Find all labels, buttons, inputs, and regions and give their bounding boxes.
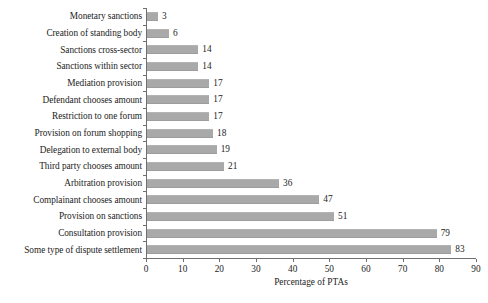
y-axis-tick [143, 8, 146, 9]
bar-value-label: 83 [455, 245, 464, 254]
x-axis-tick-label: 80 [427, 264, 451, 275]
category-axis-labels: Monetary sanctionsCreation of standing b… [0, 8, 142, 258]
x-axis-tick [329, 259, 330, 262]
bar-value-label: 3 [162, 12, 167, 21]
y-axis-tick [143, 108, 146, 109]
bar [147, 179, 279, 188]
bar-value-label: 14 [202, 45, 211, 54]
x-axis-title: Percentage of PTAs [146, 277, 476, 287]
bar-value-label: 6 [173, 29, 178, 38]
y-axis-tick [143, 91, 146, 92]
y-axis-tick [143, 58, 146, 59]
bar-value-label: 17 [213, 79, 222, 88]
x-axis-tick [403, 259, 404, 262]
category-label: Creation of standing body [0, 28, 142, 38]
y-axis-tick [143, 125, 146, 126]
y-axis-tick [143, 175, 146, 176]
bar-value-label: 14 [202, 62, 211, 71]
category-label: Consultation provision [0, 228, 142, 238]
category-label: Provision on sanctions [0, 211, 142, 221]
category-label: Sanctions cross-sector [0, 45, 142, 55]
x-axis-tick-label: 60 [354, 264, 378, 275]
x-axis-tick [366, 259, 367, 262]
bar [147, 12, 158, 21]
category-label: Mediation provision [0, 78, 142, 88]
x-axis-tick-label: 70 [391, 264, 415, 275]
bar-value-label: 18 [217, 129, 226, 138]
bar-value-label: 51 [338, 212, 347, 221]
y-axis-tick [143, 241, 146, 242]
x-axis-tick-label: 40 [281, 264, 305, 275]
bar-value-label: 47 [323, 195, 332, 204]
x-axis-tick-label: 30 [244, 264, 268, 275]
category-label: Complainant chooses amount [0, 195, 142, 205]
x-axis-tick-label: 90 [464, 264, 488, 275]
bar [147, 29, 169, 38]
bar [147, 245, 451, 254]
bar-value-label: 17 [213, 95, 222, 104]
bar [147, 112, 209, 121]
x-axis-tick-label: 50 [317, 264, 341, 275]
bar [147, 145, 217, 154]
x-axis-tick-label: 10 [171, 264, 195, 275]
y-axis-tick [143, 225, 146, 226]
category-label: Delegation to external body [0, 145, 142, 155]
x-axis-tick [146, 259, 147, 262]
bar [147, 129, 213, 138]
y-axis-tick [143, 158, 146, 159]
x-axis-tick [476, 259, 477, 262]
category-label: Third party chooses amount [0, 161, 142, 171]
bar-value-label: 36 [283, 179, 292, 188]
plot-area: 3614141717171819213647517983010203040506… [146, 8, 476, 258]
category-label: Sanctions within sector [0, 61, 142, 71]
y-axis-tick [143, 141, 146, 142]
x-axis-tick-label: 0 [134, 264, 158, 275]
bar [147, 229, 437, 238]
bar [147, 195, 319, 204]
category-label: Arbitration provision [0, 178, 142, 188]
y-axis-tick [143, 208, 146, 209]
bar-chart: Monetary sanctionsCreation of standing b… [0, 0, 488, 303]
x-axis-tick [256, 259, 257, 262]
bar-value-label: 19 [221, 145, 230, 154]
category-label: Some type of dispute settlement [0, 245, 142, 255]
x-axis-tick [219, 259, 220, 262]
x-axis-tick [439, 259, 440, 262]
x-axis-line [146, 258, 476, 259]
y-axis-tick [143, 191, 146, 192]
y-axis-tick [143, 75, 146, 76]
bar [147, 45, 198, 54]
bar-value-label: 21 [228, 162, 237, 171]
bar [147, 62, 198, 71]
bar-value-label: 79 [441, 229, 450, 238]
y-axis-tick [143, 41, 146, 42]
x-axis-tick [183, 259, 184, 262]
bar [147, 162, 224, 171]
y-axis-tick [143, 25, 146, 26]
bar [147, 79, 209, 88]
category-label: Restriction to one forum [0, 111, 142, 121]
category-label: Defendant chooses amount [0, 95, 142, 105]
bar [147, 212, 334, 221]
bar-value-label: 17 [213, 112, 222, 121]
bar [147, 95, 209, 104]
category-label: Provision on forum shopping [0, 128, 142, 138]
category-label: Monetary sanctions [0, 11, 142, 21]
x-axis-tick [293, 259, 294, 262]
x-axis-tick-label: 20 [207, 264, 231, 275]
